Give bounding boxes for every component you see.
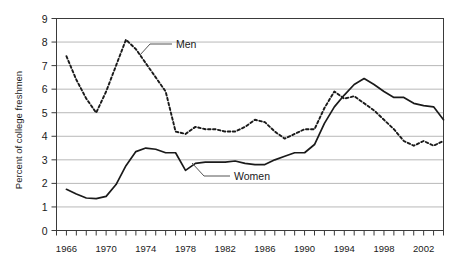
x-axis-ticks: 1966197019741978198219861990199419982002 (56, 243, 434, 254)
y-tick-label: 6 (42, 83, 48, 95)
annotation-leaders (140, 44, 230, 176)
x-tick-label: 1974 (135, 243, 156, 254)
x-tick-label: 1998 (373, 243, 394, 254)
plot-frame (57, 19, 444, 231)
y-tick-label: 4 (42, 130, 48, 142)
x-tick-label: 1978 (175, 243, 196, 254)
y-tick-label: 1 (42, 201, 48, 213)
series-label-men: Men (176, 38, 197, 50)
y-tick-label: 8 (42, 36, 48, 48)
x-tick-label: 1990 (294, 243, 315, 254)
x-tick-label: 1970 (96, 243, 117, 254)
chart-container: Percent of college freshmen 0123456789 1… (0, 0, 456, 269)
y-tick-label: 3 (42, 154, 48, 166)
x-axis-minor-ticks (57, 231, 444, 236)
y-axis-ticks: 0123456789 (42, 13, 57, 237)
line-chart: Percent of college freshmen 0123456789 1… (0, 0, 456, 269)
x-tick-label: 1982 (215, 243, 236, 254)
y-tick-label: 0 (42, 225, 48, 237)
women-leader-line (192, 163, 230, 176)
y-axis-title: Percent of college freshmen (13, 71, 24, 189)
x-tick-label: 1994 (334, 243, 355, 254)
x-tick-label: 2002 (413, 243, 434, 254)
y-axis-title-text: Percent of college freshmen (13, 71, 24, 189)
y-tick-label: 7 (42, 60, 48, 72)
x-tick-label: 1986 (254, 243, 275, 254)
y-tick-label: 5 (42, 107, 48, 119)
x-tick-label: 1966 (56, 243, 77, 254)
series-label-women: Women (234, 170, 270, 182)
y-tick-label: 2 (42, 177, 48, 189)
y-tick-label: 9 (42, 13, 48, 25)
men-leader-line (140, 44, 172, 55)
plot-border (57, 19, 444, 231)
